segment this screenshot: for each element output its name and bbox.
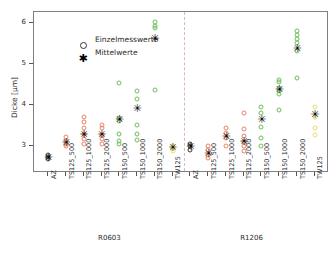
x-tick-label: TS125_500 <box>210 143 218 179</box>
mean-marker: ✳ <box>133 103 142 112</box>
data-point <box>295 28 300 33</box>
data-point <box>259 136 264 141</box>
x-tick-label: TS150_2000 <box>299 139 307 179</box>
data-point <box>312 125 317 130</box>
x-tick-label: TS150_1000 <box>139 139 147 179</box>
data-point <box>241 127 246 132</box>
legend-label-individual: Einzelmesswerte <box>95 35 158 44</box>
mean-marker: ✳ <box>44 153 53 162</box>
mean-marker: ✳ <box>257 115 266 124</box>
mean-marker: ✳ <box>115 114 124 123</box>
x-tick-label: TS125_500 <box>68 143 76 179</box>
mean-marker: ✳ <box>168 143 177 152</box>
x-tick-mark <box>189 172 190 176</box>
data-point <box>81 114 86 119</box>
data-point <box>241 110 246 115</box>
mean-marker: ✳ <box>275 85 284 94</box>
x-tick-mark <box>278 172 279 176</box>
group-label: R0603 <box>98 234 121 242</box>
x-tick-label: AZ <box>50 170 58 179</box>
y-tick-label: 3 <box>8 141 26 149</box>
data-point <box>117 132 122 137</box>
data-point <box>135 132 140 137</box>
y-axis-label: Dicke [µm] <box>10 77 19 118</box>
data-point <box>117 80 122 85</box>
group-label: R1206 <box>240 234 263 242</box>
legend-label-mean: Mittelwerte <box>95 48 138 57</box>
x-tick-label: TS125_1000 <box>85 139 93 179</box>
data-point <box>135 123 140 128</box>
data-point <box>81 119 86 124</box>
mean-marker: ✳ <box>293 44 302 53</box>
x-tick-mark <box>83 172 84 176</box>
mean-marker: ✳ <box>186 142 195 151</box>
panel-divider <box>184 12 185 171</box>
chart-root: Dicke [µm] 3456 Einzelmesswerte ✱ Mittel… <box>0 0 336 254</box>
data-point <box>152 87 157 92</box>
data-point <box>295 75 300 80</box>
y-tick-label: 5 <box>8 59 26 67</box>
y-tick-label: 4 <box>8 100 26 108</box>
x-tick-mark <box>172 172 173 176</box>
x-tick-label: TS125_2000 <box>103 139 111 179</box>
x-tick-mark <box>314 172 315 176</box>
x-tick-label: TS150_500 <box>263 143 271 179</box>
mean-marker: ✳ <box>310 110 319 119</box>
mean-marker: ✳ <box>79 129 88 138</box>
open-circle-icon <box>78 34 88 46</box>
data-point <box>152 20 157 25</box>
x-tick-mark <box>154 172 155 176</box>
x-tick-mark <box>296 172 297 176</box>
x-tick-mark <box>243 172 244 176</box>
x-tick-label: TS150_2000 <box>156 139 164 179</box>
y-tick-label: 6 <box>8 18 26 26</box>
x-tick-mark <box>47 172 48 176</box>
x-tick-label: AZ <box>192 170 200 179</box>
data-point <box>312 132 317 137</box>
x-tick-mark <box>65 172 66 176</box>
x-tick-mark <box>136 172 137 176</box>
data-point <box>277 108 282 113</box>
x-tick-label: TS150_1000 <box>281 139 289 179</box>
x-tick-mark <box>207 172 208 176</box>
x-tick-mark <box>260 172 261 176</box>
x-tick-label: TS125_2000 <box>245 139 253 179</box>
data-point <box>259 105 264 110</box>
x-tick-label: TS125_1000 <box>228 139 236 179</box>
x-tick-mark <box>225 172 226 176</box>
x-tick-mark <box>118 172 119 176</box>
x-tick-mark <box>101 172 102 176</box>
x-tick-label: TW125 <box>174 156 182 179</box>
x-tick-label: TW125 <box>316 156 324 179</box>
x-tick-label: TS150_500 <box>121 143 129 179</box>
mean-marker: ✳ <box>150 33 159 42</box>
mean-marker: ✳ <box>97 130 106 139</box>
star-icon: ✱ <box>78 47 88 59</box>
data-point <box>135 89 140 94</box>
